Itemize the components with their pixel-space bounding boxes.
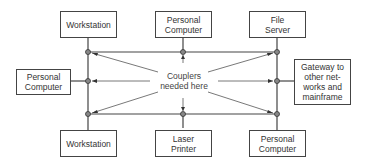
label-line: Couplers [148,71,220,81]
node-label: Personal [261,134,295,144]
node-gateway: Gateway to other net- works and mainfram… [294,59,351,105]
node-label: Laser [173,134,194,144]
node-label: Personal [27,72,61,82]
node-laser-printer: Laser Printer [155,130,212,157]
node-label: mainframe [302,92,342,102]
node-label: other net- [304,72,340,82]
node-personal-computer-bottom: Personal Computer [249,130,306,157]
node-label: Server [265,25,290,35]
node-workstation-top: Workstation [60,11,117,38]
node-label: works and [303,82,342,92]
node-label: Gateway to [301,62,344,72]
node-label: Workstation [66,20,111,30]
label-line: needed here [148,81,220,91]
node-personal-computer-top: Personal Computer [155,11,212,38]
node-file-server: File Server [249,11,306,38]
node-personal-computer-left: Personal Computer [16,69,71,95]
node-label: File [271,15,285,25]
couplers-label: Couplers needed here [148,71,220,91]
node-workstation-bottom: Workstation [60,130,117,157]
node-label: Personal [167,15,201,25]
node-label: Printer [171,144,196,154]
node-label: Computer [165,25,202,35]
node-label: Workstation [66,139,111,149]
node-label: Computer [259,144,296,154]
node-label: Computer [25,82,62,92]
